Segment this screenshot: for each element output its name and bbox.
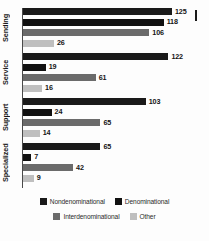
bar-value-label: 122	[171, 52, 183, 61]
bar-value-label: 103	[149, 97, 161, 106]
bar-support-nondenominational	[23, 98, 146, 105]
bar-value-label: 26	[57, 38, 65, 47]
legend-swatch-icon	[53, 213, 60, 220]
bar-row: 14	[23, 130, 208, 137]
legend-swatch-icon	[115, 198, 122, 205]
bar-chart: Sending12511810626Service122196116Suppor…	[0, 0, 209, 241]
plot-area: Sending12511810626Service122196116Suppor…	[0, 6, 209, 192]
bar-row: 61	[23, 74, 208, 81]
category-label-specialized: Specialized	[1, 143, 21, 182]
bar-value-label: 24	[55, 107, 63, 116]
bar-value-label: 106	[152, 28, 164, 37]
bar-group-specialized: Specialized657429	[0, 143, 209, 185]
bar-service-nondenominational	[23, 53, 168, 60]
bar-specialized-interdenominational	[23, 164, 73, 171]
bar-group-service: Service122196116	[0, 53, 209, 95]
category-label-service: Service	[1, 53, 21, 92]
bar-value-label: 65	[103, 118, 111, 127]
bar-group-sending: Sending12511810626	[0, 8, 209, 50]
legend-label: Nondenominational	[50, 198, 105, 205]
bar-row: 125	[23, 8, 208, 15]
bar-value-label: 16	[45, 83, 53, 92]
legend-row: NondenominationalDenominational	[0, 198, 209, 205]
bar-specialized-other	[23, 175, 34, 182]
bar-row: 42	[23, 164, 208, 171]
bar-value-label: 65	[103, 142, 111, 151]
bar-row: 19	[23, 64, 208, 71]
legend-swatch-icon	[40, 198, 47, 205]
bar-group-support: Support103246514	[0, 98, 209, 140]
bar-row: 65	[23, 119, 208, 126]
bar-row: 122	[23, 53, 208, 60]
legend-swatch-icon	[130, 213, 137, 220]
bar-row: 16	[23, 85, 208, 92]
legend-item-other[interactable]: Other	[130, 213, 156, 220]
bar-value-label: 42	[76, 163, 84, 172]
category-label-sending: Sending	[1, 8, 21, 47]
bar-row: 26	[23, 40, 208, 47]
bar-sending-other	[23, 40, 54, 47]
bar-value-label: 125	[175, 7, 187, 16]
bar-value-label: 9	[37, 173, 41, 182]
bar-value-label: 118	[167, 17, 178, 26]
bar-service-interdenominational	[23, 74, 96, 81]
bar-support-interdenominational	[23, 119, 100, 126]
bar-sending-nondenominational	[23, 8, 172, 15]
legend-label: Other	[140, 213, 156, 220]
legend-item-denominational[interactable]: Denominational	[115, 198, 169, 205]
bar-support-other	[23, 130, 40, 137]
bar-row: 103	[23, 98, 208, 105]
bar-value-label: 19	[49, 62, 57, 71]
bar-row: 7	[23, 154, 208, 161]
bar-specialized-denominational	[23, 154, 31, 161]
bar-service-denominational	[23, 64, 46, 71]
legend-item-interdenominational[interactable]: Interdenominational	[53, 213, 119, 220]
bar-sending-interdenominational	[23, 29, 149, 36]
legend-label: Interdenominational	[63, 213, 119, 220]
bar-row: 24	[23, 109, 208, 116]
bar-value-label: 14	[43, 128, 51, 137]
legend-label: Denominational	[125, 198, 169, 205]
bar-value-label: 7	[34, 152, 38, 161]
vertical-tick-mark-icon	[195, 10, 197, 21]
bar-value-label: 61	[99, 73, 107, 82]
legend-item-nondenominational[interactable]: Nondenominational	[40, 198, 105, 205]
bar-row: 65	[23, 143, 208, 150]
bar-row: 118	[23, 19, 208, 26]
bar-service-other	[23, 85, 42, 92]
bar-sending-denominational	[23, 19, 164, 26]
bar-row: 106	[23, 29, 208, 36]
bar-support-denominational	[23, 109, 52, 116]
bar-row: 9	[23, 175, 208, 182]
category-label-support: Support	[1, 98, 21, 137]
bar-specialized-nondenominational	[23, 143, 100, 150]
legend-row: InterdenominationalOther	[0, 213, 209, 220]
